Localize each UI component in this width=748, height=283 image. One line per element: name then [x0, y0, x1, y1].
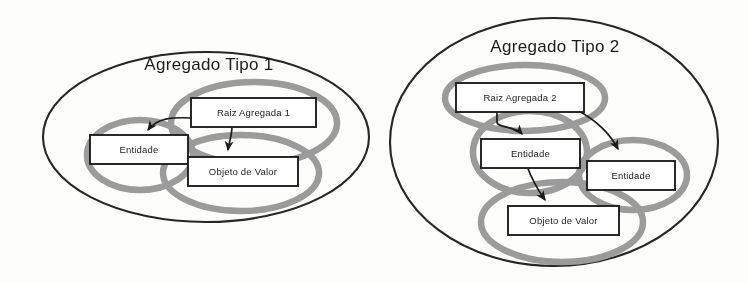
box-label-entidade-2a: Entidade	[511, 148, 550, 159]
box-label-entidade-1: Entidade	[119, 144, 158, 155]
box-objeto-de-valor-2[interactable]: Objeto de Valor	[508, 206, 619, 235]
aggregate-title-2: Agregado Tipo 2	[490, 37, 619, 56]
box-label-raiz-agregada-2: Raiz Agregada 2	[483, 92, 556, 103]
box-entidade-1[interactable]: Entidade	[90, 135, 188, 164]
box-entidade-2b[interactable]: Entidade	[587, 161, 675, 190]
aggregate-diagram-1: Raiz Agregada 1 Entidade Objeto de Valor…	[43, 52, 369, 222]
box-label-objeto-de-valor-1: Objeto de Valor	[209, 166, 277, 177]
aggregate-diagram-2: Raiz Agregada 2 Entidade Entidade Objeto…	[390, 18, 718, 266]
box-entidade-2a[interactable]: Entidade	[481, 139, 580, 168]
diagram-canvas: Raiz Agregada 1 Entidade Objeto de Valor…	[0, 0, 748, 283]
box-raiz-agregada-1[interactable]: Raiz Agregada 1	[191, 98, 316, 127]
box-raiz-agregada-2[interactable]: Raiz Agregada 2	[456, 83, 584, 112]
box-label-objeto-de-valor-2: Objeto de Valor	[529, 215, 597, 226]
box-label-raiz-agregada-1: Raiz Agregada 1	[217, 107, 290, 118]
box-objeto-de-valor-1[interactable]: Objeto de Valor	[188, 157, 298, 186]
box-label-entidade-2b: Entidade	[611, 170, 650, 181]
aggregate-title-1: Agregado Tipo 1	[144, 55, 273, 74]
